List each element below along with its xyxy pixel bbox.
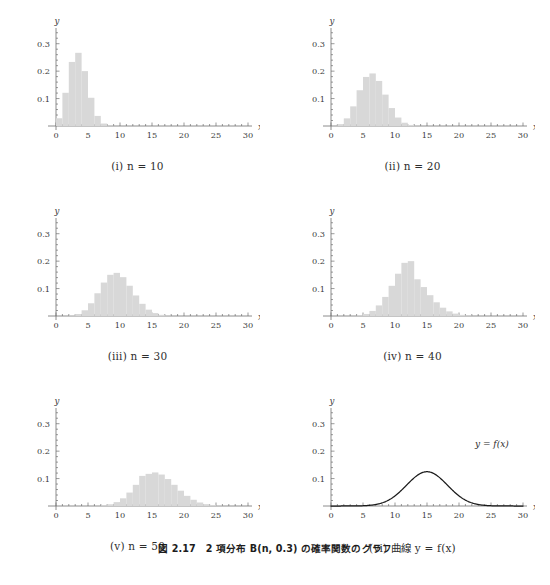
histogram-bar: [369, 73, 375, 126]
histogram-bar: [94, 116, 100, 126]
histogram-bar: [389, 108, 395, 126]
x-tick-label: 25: [486, 510, 496, 520]
x-tick-label: 20: [454, 320, 464, 330]
histogram-bar: [337, 124, 343, 126]
histogram-bar: [88, 98, 94, 126]
histogram-bar: [158, 475, 164, 506]
x-tick-label: 10: [390, 130, 400, 140]
histogram-bar: [101, 283, 107, 316]
x-axis-label: x: [258, 122, 260, 132]
histogram-bar: [107, 275, 113, 316]
chart-iii: 051015202530x0.10.20.3y: [30, 208, 260, 338]
y-tick-label: 0.2: [37, 66, 50, 76]
x-axis-label: x: [258, 502, 260, 512]
normal-curve: [331, 472, 523, 506]
x-tick-label: 25: [211, 510, 221, 520]
x-axis-label: x: [533, 502, 535, 512]
histogram-bar: [376, 81, 382, 126]
plot-area-iii: 051015202530x0.10.20.3y: [30, 208, 260, 338]
x-tick-label: 0: [53, 320, 58, 330]
x-tick-label: 30: [243, 320, 253, 330]
plot-area-iv: 051015202530x0.10.20.3y: [305, 208, 535, 338]
panel-ii: 051015202530x0.10.20.3y (ii) n = 20: [275, 8, 550, 198]
histogram-bar: [139, 304, 145, 316]
histogram-bar: [350, 106, 356, 126]
x-tick-label: 20: [179, 320, 189, 330]
x-axis-label: x: [533, 122, 535, 132]
histogram-bar: [120, 277, 126, 316]
histogram-bar: [94, 293, 100, 316]
y-tick-label: 0.1: [312, 94, 325, 104]
y-tick-label: 0.3: [312, 39, 325, 49]
y-tick-label: 0.3: [37, 419, 50, 429]
x-tick-label: 0: [328, 510, 333, 520]
x-tick-label: 5: [360, 130, 365, 140]
histogram-bar: [139, 476, 145, 506]
histogram-bar: [401, 263, 407, 316]
bar-series: [357, 261, 472, 316]
plot-area-v: 051015202530x0.10.20.3y: [30, 398, 260, 528]
x-tick-label: 15: [422, 320, 432, 330]
histogram-bar: [197, 502, 203, 506]
histogram-bar: [114, 273, 120, 316]
y-tick-label: 0.2: [312, 256, 325, 266]
x-tick-label: 30: [243, 510, 253, 520]
histogram-bar: [126, 286, 132, 316]
histogram-bar: [165, 479, 171, 506]
histogram-bar: [408, 261, 414, 316]
x-tick-label: 30: [518, 510, 528, 520]
histogram-bar: [395, 274, 401, 316]
plot-area-vi: 051015202530x0.10.20.3yy = f(x): [305, 398, 535, 528]
x-axis-label: x: [533, 312, 535, 322]
x-tick-label: 5: [85, 130, 90, 140]
y-axis-label: y: [54, 18, 60, 26]
chart-v: 051015202530x0.10.20.3y: [30, 398, 260, 528]
chart-iv: 051015202530x0.10.20.3y: [305, 208, 535, 338]
x-tick-label: 5: [85, 510, 90, 520]
x-tick-label: 10: [115, 510, 125, 520]
histogram-bar: [101, 124, 107, 126]
histogram-bar: [459, 315, 465, 316]
panel-iii: 051015202530x0.10.20.3y (iii) n = 30: [0, 198, 275, 388]
x-tick-label: 0: [328, 130, 333, 140]
x-tick-label: 15: [147, 510, 157, 520]
x-tick-label: 15: [422, 510, 432, 520]
plot-area-ii: 051015202530x0.10.20.3y: [305, 18, 535, 148]
histogram-bar: [190, 500, 196, 506]
histogram-bar: [453, 314, 459, 316]
histogram-bar: [75, 53, 81, 126]
histogram-bar: [389, 286, 395, 316]
histogram-bar: [133, 295, 139, 316]
histogram-bar: [357, 315, 363, 316]
histogram-bar: [56, 118, 62, 126]
histogram-bar: [203, 504, 209, 506]
x-tick-label: 15: [147, 320, 157, 330]
histogram-bar: [376, 305, 382, 316]
histogram-bar: [357, 90, 363, 126]
y-axis-label: y: [54, 398, 60, 406]
histogram-bar: [146, 474, 152, 506]
x-tick-label: 10: [390, 320, 400, 330]
histogram-bar: [395, 118, 401, 126]
x-tick-label: 15: [147, 130, 157, 140]
histogram-bar: [363, 314, 369, 316]
x-axis-label: x: [258, 312, 260, 322]
histogram-bar: [427, 295, 433, 316]
histogram-bar: [158, 315, 164, 316]
histogram-bar: [433, 302, 439, 316]
histogram-bar: [184, 496, 190, 506]
panel-caption-ii: (ii) n = 20: [275, 160, 550, 172]
y-axis-label: y: [329, 208, 335, 216]
y-tick-label: 0.1: [312, 284, 325, 294]
x-tick-label: 30: [243, 130, 253, 140]
histogram-bar: [82, 71, 88, 126]
bar-series: [337, 73, 420, 126]
x-tick-label: 30: [518, 130, 528, 140]
histogram-bar: [446, 311, 452, 316]
histogram-bar: [382, 297, 388, 316]
y-tick-label: 0.3: [37, 39, 50, 49]
y-tick-label: 0.1: [37, 474, 50, 484]
histogram-bar: [62, 93, 68, 126]
histogram-bar: [344, 118, 350, 126]
x-tick-label: 0: [53, 510, 58, 520]
